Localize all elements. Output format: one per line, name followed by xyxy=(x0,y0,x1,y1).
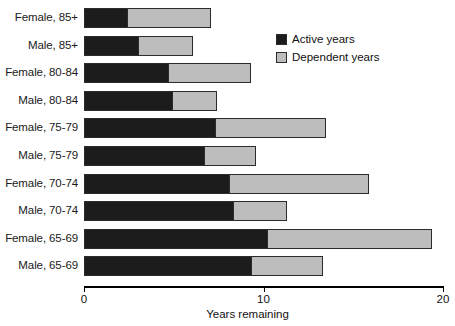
bar-row xyxy=(84,229,432,249)
legend-label: Active years xyxy=(292,31,355,47)
bar-segment-active xyxy=(84,8,127,28)
bar-row xyxy=(84,118,326,138)
category-label: Male, 70-74 xyxy=(0,205,78,217)
x-tick-label: 0 xyxy=(64,293,104,306)
legend-item: Dependent years xyxy=(276,49,380,65)
category-label: Male, 85+ xyxy=(0,40,78,52)
bar-segment-dependent xyxy=(127,8,211,28)
bar-segment-active xyxy=(84,63,168,83)
bar-segment-active xyxy=(84,118,215,138)
bar-row xyxy=(84,36,193,56)
legend-label: Dependent years xyxy=(292,49,380,65)
bar-row xyxy=(84,256,323,276)
bar-segment-active xyxy=(84,146,204,166)
bar-segment-active xyxy=(84,201,233,221)
bar-segment-dependent xyxy=(204,146,256,166)
bar-row xyxy=(84,174,369,194)
x-tick-label: 10 xyxy=(244,293,284,306)
bar-row xyxy=(84,63,251,83)
category-label: Female, 80-84 xyxy=(0,67,78,79)
bar-segment-active xyxy=(84,229,267,249)
bar-row xyxy=(84,8,211,28)
x-tick xyxy=(443,286,444,292)
bar-segment-dependent xyxy=(138,36,194,56)
bar-row xyxy=(84,146,256,166)
bar-row xyxy=(84,91,217,111)
bar-segment-active xyxy=(84,91,172,111)
bar-row xyxy=(84,201,287,221)
bar-segment-dependent xyxy=(172,91,217,111)
x-tick xyxy=(84,286,85,292)
category-label: Female, 75-79 xyxy=(0,122,78,134)
stacked-bar-chart: Female, 85+Male, 85+Female, 80-84Male, 8… xyxy=(0,0,455,326)
plot-area xyxy=(84,0,443,286)
legend-item: Active years xyxy=(276,31,380,47)
legend-swatch-dependent xyxy=(276,52,287,63)
bar-segment-active xyxy=(84,256,251,276)
x-tick xyxy=(264,286,265,292)
bar-segment-dependent xyxy=(229,174,369,194)
bar-segment-active xyxy=(84,174,229,194)
bar-segment-dependent xyxy=(168,63,251,83)
legend-swatch-active xyxy=(276,34,287,45)
category-label: Female, 65-69 xyxy=(0,233,78,245)
category-label: Female, 85+ xyxy=(0,12,78,24)
bar-segment-dependent xyxy=(267,229,432,249)
chart-legend: Active yearsDependent years xyxy=(276,31,380,67)
bar-segment-dependent xyxy=(251,256,323,276)
bar-segment-dependent xyxy=(215,118,326,138)
x-tick-label: 20 xyxy=(423,293,455,306)
category-label: Male, 75-79 xyxy=(0,150,78,162)
x-axis-title: Years remaining xyxy=(0,308,455,320)
bar-segment-active xyxy=(84,36,138,56)
category-label: Male, 65-69 xyxy=(0,260,78,272)
category-label: Female, 70-74 xyxy=(0,178,78,190)
category-label: Male, 80-84 xyxy=(0,95,78,107)
x-axis-title-text: Years remaining xyxy=(166,308,289,320)
bar-segment-dependent xyxy=(233,201,287,221)
